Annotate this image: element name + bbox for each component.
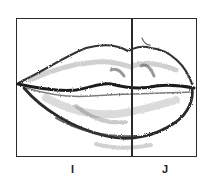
section-divider	[131, 18, 133, 157]
lips-sketch	[16, 18, 197, 157]
label-j: J	[162, 163, 168, 175]
label-i: I	[71, 163, 74, 175]
mouth-line	[18, 84, 194, 91]
